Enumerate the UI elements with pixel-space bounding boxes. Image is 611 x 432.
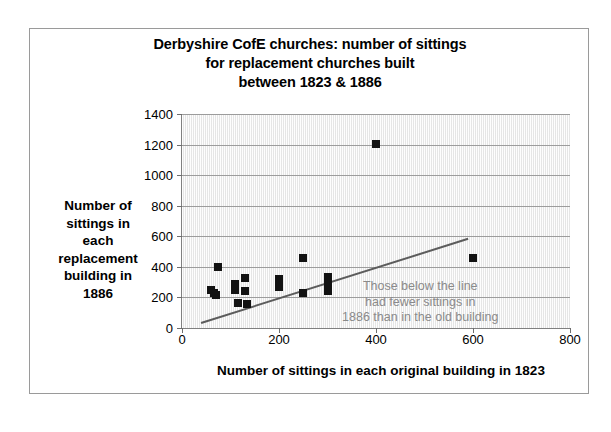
data-point: [234, 299, 242, 307]
x-tick-label-200: 200: [268, 333, 290, 346]
x-tick-label-800: 800: [559, 333, 581, 346]
y-axis-title: Number of sittings in each replacement b…: [38, 197, 158, 302]
data-point: [372, 140, 380, 148]
y-tick-label-200: 200: [151, 291, 173, 304]
gridline-y-1400: [182, 114, 570, 115]
gridline-y-800: [182, 206, 570, 207]
y-tick-1200: [177, 145, 182, 146]
data-point: [241, 274, 249, 282]
data-point: [231, 286, 239, 294]
y-axis-title-line-6: 1886: [38, 285, 158, 303]
data-point: [299, 289, 307, 297]
plot-annotation-line-3: 1886 than in the old building: [342, 310, 498, 326]
y-axis-title-line-4: replacement: [38, 250, 158, 268]
y-tick-1400: [177, 114, 182, 115]
y-tick-label-600: 600: [151, 230, 173, 243]
screenshot-root: Derbyshire CofE churches: number of sitt…: [0, 0, 611, 432]
plot-annotation: Those below the line had fewer sittings …: [342, 279, 498, 326]
data-point: [324, 287, 332, 295]
y-tick-600: [177, 236, 182, 237]
gridline-y-1000: [182, 175, 570, 176]
x-axis-title: Number of sittings in each original buil…: [181, 363, 581, 378]
x-tick-label-600: 600: [462, 333, 484, 346]
chart-title-line-3: between 1823 & 1886: [85, 73, 535, 92]
data-point: [212, 291, 220, 299]
y-tick-label-0: 0: [166, 322, 173, 335]
plot-area: 0200400600800100012001400 0200400600800 …: [181, 114, 570, 329]
y-tick-1000: [177, 175, 182, 176]
y-axis-title-line-1: Number of: [38, 197, 158, 215]
y-tick-label-400: 400: [151, 260, 173, 273]
y-axis-title-line-2: sittings in: [38, 215, 158, 233]
data-point: [214, 263, 222, 271]
data-point: [299, 254, 307, 262]
x-tick-label-400: 400: [365, 333, 387, 346]
y-tick-label-1200: 1200: [144, 138, 173, 151]
y-axis-title-line-5: building in: [38, 267, 158, 285]
gridline-y-600: [182, 236, 570, 237]
y-axis-title-line-3: each: [38, 232, 158, 250]
data-point: [469, 254, 477, 262]
chart-title-line-1: Derbyshire CofE churches: number of sitt…: [85, 35, 535, 54]
plot-annotation-line-2: had fewer sittings in: [342, 295, 498, 311]
y-tick-200: [177, 297, 182, 298]
data-point: [241, 287, 249, 295]
y-tick-800: [177, 206, 182, 207]
y-tick-label-800: 800: [151, 199, 173, 212]
data-point: [275, 283, 283, 291]
data-point: [243, 300, 251, 308]
y-tick-label-1000: 1000: [144, 169, 173, 182]
chart-title: Derbyshire CofE churches: number of sitt…: [85, 35, 535, 92]
plot-annotation-line-1: Those below the line: [342, 279, 498, 295]
y-tick-label-1400: 1400: [144, 108, 173, 121]
chart-frame: Derbyshire CofE churches: number of sitt…: [29, 28, 589, 394]
y-tick-400: [177, 267, 182, 268]
chart-title-line-2: for replacement churches built: [85, 54, 535, 73]
x-tick-label-0: 0: [178, 333, 185, 346]
